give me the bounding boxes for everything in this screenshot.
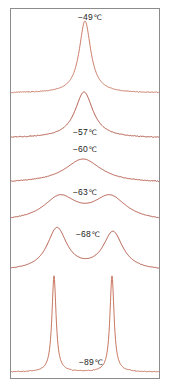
temp-label-49-unit: ℃ [93, 13, 102, 22]
temp-label-63-unit: ℃ [88, 188, 97, 197]
temp-label-63-value: −63 [73, 187, 88, 197]
temp-label-60-value: −60 [73, 144, 88, 154]
temp-label-57-value: −57 [73, 127, 88, 137]
temp-label-57-unit: ℃ [88, 128, 97, 137]
temp-label-63: −63℃ [73, 188, 97, 197]
spectra-figure: −49℃ −57℃ −60℃ −63℃ −68℃ −89℃ [0, 0, 170, 389]
temp-label-89-unit: ℃ [94, 358, 103, 367]
temp-label-49-value: −49 [78, 12, 93, 22]
spectrum-trace [11, 159, 159, 182]
temp-label-89-value: −89 [79, 357, 94, 367]
temp-label-60: −60℃ [73, 145, 97, 154]
temp-label-57: −57℃ [73, 128, 97, 137]
plot-frame: −49℃ −57℃ −60℃ −63℃ −68℃ −89℃ [10, 8, 160, 379]
spectrum-trace [11, 195, 159, 218]
temp-label-68: −68℃ [76, 230, 100, 239]
temp-label-68-unit: ℃ [91, 230, 100, 239]
spectrum-trace [11, 21, 159, 93]
temp-label-49: −49℃ [78, 13, 102, 22]
temp-label-60-unit: ℃ [88, 145, 97, 154]
temp-label-89: −89℃ [79, 358, 103, 367]
temp-label-68-value: −68 [76, 229, 91, 239]
